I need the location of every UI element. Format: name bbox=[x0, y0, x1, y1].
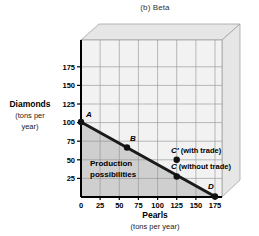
chart-figure: (b) Beta bbox=[0, 0, 259, 236]
frame-top-panel bbox=[81, 24, 240, 40]
y-axis-units-line1: (tons per bbox=[0, 110, 60, 121]
region-label-line1: Production bbox=[90, 159, 136, 170]
point-label-b: B bbox=[130, 134, 136, 143]
point-label-a: A bbox=[86, 110, 92, 119]
y-tick-label-75: 75 bbox=[53, 137, 75, 146]
frame-right-panel bbox=[222, 24, 240, 197]
y-tick-label-175: 175 bbox=[53, 63, 75, 72]
point-label-c-prime: C′ (with trade) bbox=[171, 146, 221, 155]
y-tick-label-25: 25 bbox=[53, 174, 75, 183]
point-label-c-note: (without trade) bbox=[177, 162, 231, 171]
region-label-line2: possibilities bbox=[90, 170, 136, 181]
point-label-d: D bbox=[208, 182, 214, 191]
point-label-c-prime-note: (with trade) bbox=[179, 146, 222, 155]
y-tick-label-150: 150 bbox=[53, 81, 75, 90]
y-axis-title-text: Diamonds bbox=[0, 99, 60, 110]
data-point-b bbox=[124, 144, 130, 150]
point-label-c: C (without trade) bbox=[171, 162, 231, 171]
data-point-d bbox=[212, 193, 218, 199]
y-tick-label-100: 100 bbox=[53, 118, 75, 127]
point-label-c-prime-letter: C′ bbox=[171, 146, 179, 155]
x-tick-label-175: 175 bbox=[203, 201, 227, 210]
y-axis-units-line2: year) bbox=[0, 121, 60, 132]
data-point-a bbox=[78, 119, 84, 125]
y-axis-title: Diamonds (tons per year) bbox=[0, 99, 60, 132]
x-axis-units: (tons per year) bbox=[100, 221, 210, 232]
x-axis-title: Pearls (tons per year) bbox=[100, 210, 210, 232]
y-tick-label-125: 125 bbox=[53, 100, 75, 109]
production-possibilities-label: Production possibilities bbox=[90, 159, 136, 180]
x-axis-title-text: Pearls bbox=[100, 210, 210, 221]
y-tick-label-50: 50 bbox=[53, 156, 75, 165]
data-point-c bbox=[174, 173, 180, 179]
